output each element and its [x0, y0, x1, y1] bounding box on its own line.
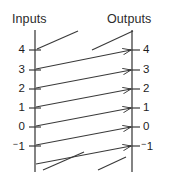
- clipped-segment-top-2: [92, 31, 133, 50]
- mapping-arrow-1-to-1: [36, 108, 131, 126]
- tick-label-right-2: 2: [143, 83, 161, 95]
- tick-marks-right: [128, 50, 140, 146]
- tick-label-left-2: 2: [7, 83, 25, 95]
- tick-label-left-3: 3: [7, 64, 25, 76]
- tick-label-right-negative-1: −1: [141, 140, 165, 152]
- mapping-arrows: [36, 50, 131, 164]
- clipped-segment-bottom-2: [98, 157, 126, 170]
- mapping-arrow-4-to-4: [36, 50, 131, 69]
- mapping-arrow-0-to-0: [36, 127, 131, 145]
- tick-label-left-0: 0: [7, 121, 25, 133]
- tick-label-right-0: 0: [143, 121, 161, 133]
- axis-lines: [35, 30, 132, 172]
- tick-label-right-1: 1: [143, 102, 161, 114]
- tick-label-right-4: 4: [143, 44, 161, 56]
- clipped-guide-segments: [37, 31, 133, 170]
- mapping-arrow-3-to-3: [36, 70, 131, 88]
- input-output-mapping-diagram: Inputs Outputs: [0, 0, 173, 179]
- tick-label-left-negative-1: −1: [3, 140, 25, 152]
- minus-sign-icon: −: [13, 139, 18, 149]
- tick-label-left-1: 1: [7, 102, 25, 114]
- clipped-segment-top-1: [37, 31, 78, 49]
- mapping-arrow-2-to-2: [36, 89, 131, 107]
- tick-label-right-3: 3: [143, 64, 161, 76]
- tick-label-left-4: 4: [7, 44, 25, 56]
- minus-sign-icon: −: [141, 139, 146, 149]
